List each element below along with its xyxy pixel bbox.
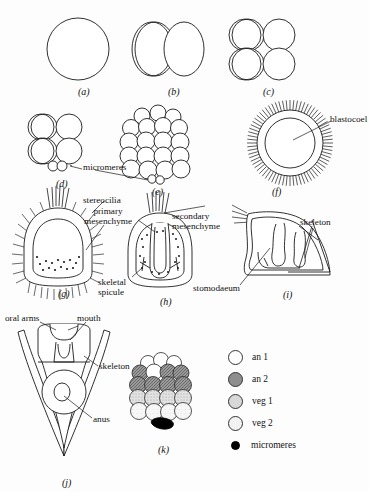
legend-item-an1: an 1 [228,346,364,368]
label-skeletal-spicule: skeletal spicule [98,277,162,297]
panel-letter-k: (k) [158,444,169,455]
label-skeleton-pluteus: skeleton [99,361,130,371]
primary-mesenchyme-line2: mesenchyme [76,216,140,226]
panel-k-fate-map [130,353,192,430]
label-oral-arms: oral arms [5,313,39,323]
primary-mesenchyme-line1: primary [76,206,140,216]
panel-j-pluteus-larva [18,322,110,456]
panel-letter-b: (b) [168,86,180,97]
panel-letter-g: (g) [58,288,70,299]
panel-letter-d: (d) [56,178,68,189]
swatch-micromeres-icon [231,441,240,450]
panel-letter-i: (i) [283,289,292,300]
label-stomodaeum: stomodaeum [193,283,240,293]
label-primary-mesenchyme: primary mesenchyme [76,206,140,226]
secondary-mesenchyme-line1: secondary [172,211,236,221]
legend: an 1 an 2 veg 1 veg 2 micromeres [228,346,364,456]
legend-label-micromeres: micromeres [251,440,296,450]
legend-label-an1: an 1 [252,352,268,362]
legend-item-veg1: veg 1 [228,390,364,412]
skeletal-spicule-line2: spicule [98,287,162,297]
panel-letter-h: (h) [160,296,172,307]
panel-letter-e: (e) [152,186,163,197]
swatch-veg2-icon [228,416,243,431]
panel-f-blastula [247,100,333,186]
panel-d-sixteen-cell [28,114,82,171]
legend-item-veg2: veg 2 [228,412,364,434]
label-anus: anus [93,414,110,424]
swatch-an2-icon [228,372,243,387]
panel-e-morula [95,105,190,184]
legend-label-veg2: veg 2 [252,418,273,428]
label-secondary-mesenchyme: secondary mesenchyme [172,211,236,231]
legend-label-an2: an 2 [252,374,268,384]
swatch-an1-icon [228,350,243,365]
label-micromeres-d: micromeres [83,162,126,172]
swatch-veg1-icon [228,394,243,409]
panel-a-egg [47,18,109,80]
label-blastocoel: blastocoel [330,114,367,124]
panel-letter-a: (a) [78,86,90,97]
label-mouth: mouth [77,313,100,323]
label-skeleton-prism: skeleton [300,217,331,227]
panel-b-two-cell [132,22,204,76]
panel-letter-f: (f) [272,186,281,197]
skeletal-spicule-line1: skeletal [98,277,162,287]
secondary-mesenchyme-line2: mesenchyme [172,221,236,231]
panel-letter-j: (j) [62,477,71,488]
label-stereocilia: stereocilia [83,195,121,205]
legend-item-micromeres: micromeres [228,434,364,456]
panel-c-four-cell [229,19,295,80]
legend-item-an2: an 2 [228,368,364,390]
panel-letter-c: (c) [263,86,274,97]
legend-label-veg1: veg 1 [252,396,273,406]
